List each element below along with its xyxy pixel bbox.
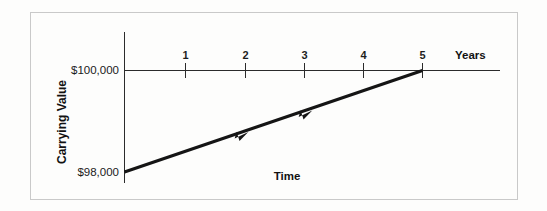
x-axis-tick-label-5: 5 bbox=[419, 49, 425, 61]
y-axis-value-label-bottom: $98,000 bbox=[77, 166, 119, 178]
chart-page: 1 2 3 4 5 Years $100,000 $98,000 Carryin… bbox=[0, 0, 547, 211]
x-axis-unit-label: Years bbox=[455, 49, 486, 61]
bond-carrying-value-chart: 1 2 3 4 5 Years $100,000 $98,000 Carryin… bbox=[0, 0, 547, 211]
x-axis-tick-label-1: 1 bbox=[182, 49, 188, 61]
y-axis-title: Carrying Value bbox=[55, 80, 69, 164]
series-line-carrying-value bbox=[125, 71, 423, 173]
x-axis-tick-label-4: 4 bbox=[360, 49, 367, 61]
x-axis-tick-label-2: 2 bbox=[242, 49, 248, 61]
x-axis-tick-label-3: 3 bbox=[301, 49, 307, 61]
x-axis-title: Time bbox=[274, 170, 301, 182]
y-axis-value-label-top: $100,000 bbox=[71, 64, 119, 76]
